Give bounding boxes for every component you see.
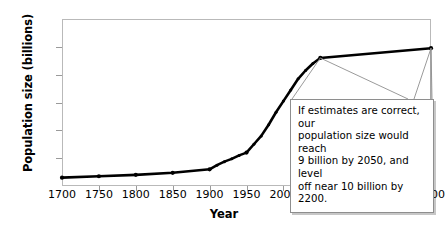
data-point-marker bbox=[97, 174, 101, 178]
data-point-marker bbox=[238, 154, 241, 157]
callout-leader-line bbox=[414, 48, 431, 99]
data-point-marker bbox=[230, 157, 233, 160]
callout-leader-line bbox=[320, 58, 408, 99]
data-point-marker bbox=[267, 123, 270, 126]
data-point-marker bbox=[60, 176, 64, 180]
data-point-marker bbox=[252, 143, 255, 146]
data-point-marker bbox=[311, 62, 314, 65]
data-point-marker bbox=[304, 69, 307, 72]
data-point-marker bbox=[215, 164, 218, 167]
data-point-marker bbox=[134, 173, 138, 177]
data-point-marker bbox=[208, 167, 212, 171]
data-point-marker bbox=[223, 160, 226, 163]
population-growth-chart: Population size (billions) 024681012 170… bbox=[0, 0, 448, 230]
data-point-marker bbox=[244, 151, 248, 155]
annotation-callout: If estimates are correct, our population… bbox=[290, 99, 434, 213]
annotation-line-4: off near 10 billion by 2200. bbox=[298, 181, 427, 206]
data-point-marker bbox=[289, 88, 292, 91]
annotation-line-1: If estimates are correct, our bbox=[298, 105, 427, 130]
data-point-marker bbox=[297, 77, 300, 80]
annotation-line-3: 9 billion by 2050, and level bbox=[298, 155, 427, 180]
annotation-line-2: population size would reach bbox=[298, 130, 427, 155]
data-point-marker bbox=[275, 111, 278, 114]
callout-leader-line bbox=[292, 58, 320, 99]
data-point-marker bbox=[282, 100, 285, 103]
data-point-marker bbox=[260, 134, 263, 137]
data-point-marker bbox=[171, 171, 175, 175]
